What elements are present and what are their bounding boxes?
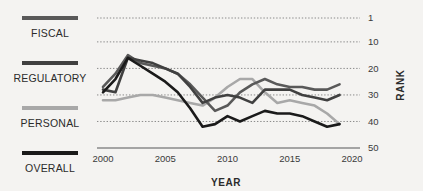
x-tick-label: 2010 (217, 153, 238, 164)
line-chart-svg: 11020304050 20002005201020152020 YEAR RA… (0, 0, 423, 191)
x-tick-labels: 20002005201020152020 (92, 153, 362, 164)
y-tick-label: 30 (368, 89, 379, 100)
y-axis-title: RANK (395, 69, 406, 100)
x-tick-label: 2015 (279, 153, 300, 164)
y-tick-label: 40 (368, 116, 379, 127)
y-tick-label: 20 (368, 63, 379, 74)
y-tick-labels: 11020304050 (368, 12, 379, 153)
plot-area: 11020304050 20002005201020152020 YEAR RA… (0, 0, 423, 191)
x-tick-label: 2005 (155, 153, 176, 164)
chart-screenshot: FISCAL REGULATORY PERSONAL OVERALL 11020… (0, 0, 423, 191)
x-axis-title: YEAR (211, 177, 241, 188)
x-tick-label: 2000 (92, 153, 113, 164)
y-tick-label: 50 (368, 142, 379, 153)
y-tick-label: 10 (368, 36, 379, 47)
y-tick-label: 1 (368, 12, 373, 23)
series-lines (103, 55, 340, 127)
x-tick-label: 2020 (341, 153, 362, 164)
